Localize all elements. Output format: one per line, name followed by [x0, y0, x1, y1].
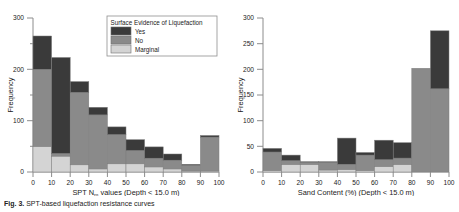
y-axis-ticks-left: 0 100 200 300 — [13, 14, 33, 175]
legend-swatch-no — [111, 36, 131, 44]
bar-segment-marginal — [145, 167, 164, 172]
x-tick-label: 70 — [390, 179, 398, 186]
legend-label-no: No — [135, 37, 144, 44]
y-tick-label: 50 — [247, 143, 255, 150]
y-tick-label: 200 — [13, 66, 24, 73]
x-tick-label: 80 — [408, 179, 416, 186]
bar-segment-no — [412, 68, 431, 172]
bar-segment-yes — [33, 36, 52, 69]
legend-left[interactable]: Surface Evidence of Liquefaction Yes No … — [107, 16, 217, 56]
bar-segment-marginal — [33, 146, 52, 172]
y-axis-ticks-right: 0 50 100 150 200 250 300 — [243, 14, 263, 175]
bar-segment-yes — [145, 147, 164, 158]
x-axis-title-right: Sand Content (%) (Depth < 15.0 m) — [298, 188, 414, 196]
bar-segment-no — [52, 154, 71, 157]
x-tick-label: 20 — [297, 179, 305, 186]
bar-segment-yes — [52, 58, 71, 154]
bar-segment-no — [263, 152, 282, 171]
x-tick-label: 10 — [48, 179, 56, 186]
bar-segment-yes — [163, 154, 182, 160]
figure-caption: Fig. 3. SPT-based liquefaction resistanc… — [4, 199, 456, 208]
bar-segment-yes — [89, 107, 108, 115]
bar-segment-yes — [282, 155, 301, 161]
bar-segment-no — [200, 137, 219, 171]
bar-segment-marginal — [300, 164, 319, 172]
x-tick-label: 40 — [104, 179, 112, 186]
y-tick-label: 100 — [13, 117, 24, 124]
x-axis-title-rest: values (Depth < 15.0 m) — [98, 188, 179, 196]
bar-segment-yes — [263, 148, 282, 152]
x-tick-label: 80 — [178, 179, 186, 186]
bar-segment-marginal — [393, 164, 412, 172]
x-axis-ticks-right: 0 10 20 30 40 50 60 70 80 90 100 — [261, 172, 455, 186]
legend-swatch-yes — [111, 27, 131, 35]
y-tick-label: 300 — [243, 14, 254, 21]
x-axis-title-left: SPT Nm values (Depth < 15.0 m) — [72, 188, 179, 196]
x-tick-label: 70 — [160, 179, 168, 186]
y-axis-title-right: Frequency — [236, 77, 245, 112]
x-tick-label: 10 — [278, 179, 286, 186]
bar-segment-no — [182, 165, 201, 171]
bar-segment-yes — [300, 162, 319, 163]
legend-label-marginal: Marginal — [135, 46, 159, 54]
figure-caption-label: Fig. 3. — [4, 200, 24, 207]
spt-histogram-svg: 0 100 200 300 Frequency — [0, 0, 229, 196]
legend-swatch-marginal — [111, 45, 131, 53]
figure-caption-text: SPT-based liquefaction resistance curves — [26, 200, 154, 207]
bar-segment-yes — [375, 140, 394, 160]
bar-segment-marginal — [319, 170, 338, 172]
chart-panel-sand-content: 0 50 100 150 200 250 300 Frequency — [230, 0, 459, 196]
x-tick-label: 60 — [371, 179, 379, 186]
bar-segment-no — [375, 160, 394, 167]
bar-segment-marginal — [107, 164, 126, 172]
bar-segment-no — [89, 115, 108, 169]
bar-segment-yes — [356, 153, 375, 156]
figure-container: 0 100 200 300 Frequency — [0, 0, 459, 212]
bar-segment-yes — [107, 127, 126, 135]
x-tick-label: 100 — [213, 179, 224, 186]
x-axis-title-main: SPT N — [72, 188, 94, 196]
bar-segment-yes — [126, 140, 145, 151]
bar-segment-marginal — [52, 156, 71, 172]
bar-segment-no — [393, 158, 412, 164]
x-tick-label: 60 — [141, 179, 149, 186]
bar-segment-no — [430, 89, 449, 172]
bar-segment-no — [163, 160, 182, 169]
bar-segment-no — [126, 151, 145, 164]
chart-panel-spt: 0 100 200 300 Frequency — [0, 0, 229, 196]
legend-label-yes: Yes — [135, 28, 145, 35]
sand-content-histogram-svg: 0 50 100 150 200 250 300 Frequency — [230, 0, 459, 196]
x-tick-label: 0 — [261, 179, 265, 186]
x-tick-label: 0 — [31, 179, 35, 186]
y-tick-label: 300 — [13, 14, 24, 21]
bar-segment-no — [300, 162, 319, 164]
x-axis-ticks-left: 0 10 20 30 40 50 60 70 80 90 100 — [31, 172, 225, 186]
bar-segment-marginal — [89, 169, 108, 172]
y-tick-label: 200 — [243, 66, 254, 73]
bar-segment-yes — [430, 31, 449, 89]
x-tick-label: 100 — [443, 179, 454, 186]
bar-segment-no — [107, 135, 126, 164]
bar-segment-no — [70, 92, 89, 164]
bar-segment-yes — [337, 138, 356, 164]
bar-segment-yes — [70, 82, 89, 93]
bar-segment-no — [33, 69, 52, 146]
bar-segment-marginal — [282, 164, 301, 172]
bar-segment-yes — [319, 162, 338, 163]
bar-segment-no — [282, 161, 301, 165]
bar-segment-no — [319, 162, 338, 170]
x-tick-label: 30 — [315, 179, 323, 186]
bars-group-left — [33, 36, 219, 172]
x-tick-label: 20 — [67, 179, 75, 186]
y-tick-label: 100 — [243, 117, 254, 124]
legend-title: Surface Evidence of Liquefaction — [111, 19, 204, 27]
y-tick-label: 0 — [250, 168, 254, 175]
bar-segment-no — [337, 164, 356, 169]
bar-segment-no — [356, 155, 375, 170]
bar-segment-yes — [393, 143, 412, 158]
y-tick-label: 0 — [20, 168, 24, 175]
bar-segment-marginal — [126, 164, 145, 172]
bar-segment-no — [145, 158, 164, 167]
bar-segment-marginal — [375, 166, 394, 172]
bars-group-right — [263, 31, 449, 172]
